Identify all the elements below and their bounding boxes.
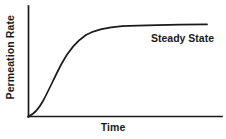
y-axis-label: Permeation Rate: [0, 0, 20, 115]
x-axis-label: Time: [0, 122, 226, 133]
permeation-rate-chart: Permeation Rate Time Steady State: [0, 0, 226, 139]
y-axis-label-text: Permeation Rate: [5, 15, 16, 99]
chart-plot-area: [0, 0, 226, 139]
steady-state-annotation: Steady State: [151, 33, 214, 44]
